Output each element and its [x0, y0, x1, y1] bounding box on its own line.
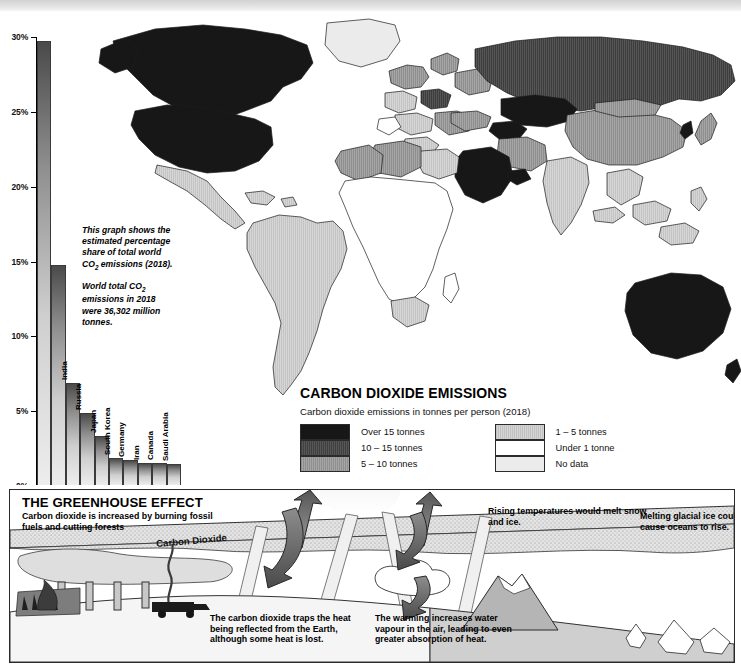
bar-canada: [152, 463, 166, 485]
caption-paragraph-2: World total CO2 emissions in 2018 were 3…: [82, 281, 174, 329]
y-axis-tick-label: 15%: [0, 257, 28, 267]
legend-title: CARBON DIOXIDE EMISSIONS: [300, 385, 720, 401]
y-axis-tick-mark: [31, 187, 36, 188]
y-axis-tick-label: 0%: [0, 481, 28, 485]
bar-germany: [123, 460, 137, 485]
bar-cell: India: [66, 37, 80, 485]
legend-swatch: [300, 424, 350, 440]
bar-label: Germany: [117, 422, 126, 457]
y-axis-tick-mark: [31, 411, 36, 412]
bar-label: India: [60, 362, 69, 381]
bar-saudi-arabia: [167, 464, 181, 485]
bar-china: [37, 41, 51, 485]
greenhouse-intro-text: Carbon dioxide is increased by burning f…: [22, 511, 222, 532]
y-axis-tick-mark: [31, 262, 36, 263]
y-axis-tick-mark: [31, 112, 36, 113]
bar-label: South Korea: [103, 408, 112, 456]
bar-iran: [138, 463, 152, 485]
note-traps-heat: The carbon dioxide traps the heat being …: [210, 613, 360, 645]
legend-row: No data: [495, 456, 615, 472]
y-axis-tick-mark: [31, 37, 36, 38]
note-melting-snow: Rising temperatures would melt snow and …: [488, 506, 648, 527]
legend-row: 10 – 15 tonnes: [300, 440, 425, 456]
legend-label: 1 – 5 tonnes: [556, 427, 607, 437]
chart-caption: This graph shows the estimated percentag…: [82, 225, 174, 336]
legend-subtitle: Carbon dioxide emissions in tonnes per p…: [300, 406, 720, 417]
legend-label: 5 – 10 tonnes: [361, 459, 417, 469]
y-axis-tick-label: 30%: [0, 32, 28, 42]
legend-label: 10 – 15 tonnes: [361, 443, 423, 453]
y-axis-tick-label: 5%: [0, 406, 28, 416]
note-oceans-rise: Melting glacial ice could cause oceans t…: [640, 511, 735, 532]
bar-label: Japan: [89, 410, 98, 433]
top-gray-band: [0, 0, 741, 11]
legend-row: Under 1 tonne: [495, 440, 615, 456]
legend-row: 5 – 10 tonnes: [300, 456, 425, 472]
legend-swatch: [495, 424, 545, 440]
legend-label: Over 15 tonnes: [361, 427, 425, 437]
bar-label: Canada: [146, 431, 155, 460]
y-axis-tick-label: 10%: [0, 331, 28, 341]
legend-swatch: [300, 440, 350, 456]
bar-label: Iran: [132, 445, 141, 460]
bar-label: Russia: [74, 384, 83, 410]
caption-p2-text-a: World total CO: [82, 281, 142, 291]
legend-swatch: [300, 456, 350, 472]
caption-paragraph-1: This graph shows the estimated percentag…: [82, 225, 174, 273]
legend-label: Under 1 tonne: [556, 443, 615, 453]
greenhouse-title: THE GREENHOUSE EFFECT: [22, 495, 203, 510]
legend-label: No data: [556, 459, 589, 469]
legend-row: 1 – 5 tonnes: [495, 424, 615, 440]
y-axis-tick-label: 20%: [0, 182, 28, 192]
caption-p2-text-b: emissions in 2018 were 36,302 million to…: [82, 294, 160, 326]
legend-column-left: Over 15 tonnes10 – 15 tonnes5 – 10 tonne…: [300, 424, 425, 472]
map-and-chart-panel: ChinaUSAIndiaRussiaJapanSouth KoreaGerma…: [0, 11, 741, 485]
map-legend: CARBON DIOXIDE EMISSIONS Carbon dioxide …: [300, 385, 720, 472]
greenhouse-effect-panel: THE GREENHOUSE EFFECT Carbon dioxide is …: [9, 489, 735, 663]
legend-swatch: [495, 440, 545, 456]
caption-p1-text-b: emissions (2018).: [98, 259, 172, 269]
note-water-vapour: The warming increases water vapour in th…: [375, 613, 525, 645]
legend-column-right: 1 – 5 tonnesUnder 1 tonneNo data: [495, 424, 615, 472]
bar-label: Saudi Arabia: [161, 412, 170, 461]
legend-swatch: [495, 456, 545, 472]
caption-p2-subscript: 2: [142, 285, 146, 292]
bar-cell: China: [37, 37, 51, 485]
infographic-root: ChinaUSAIndiaRussiaJapanSouth KoreaGerma…: [0, 0, 741, 668]
bar-south-korea: [109, 458, 123, 485]
bar-cell: USA: [51, 37, 65, 485]
y-axis-tick-label: 25%: [0, 107, 28, 117]
legend-row: Over 15 tonnes: [300, 424, 425, 440]
y-axis-tick-mark: [31, 336, 36, 337]
